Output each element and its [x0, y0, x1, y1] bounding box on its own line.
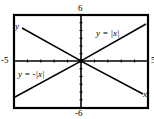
y-axis-label: y: [15, 22, 19, 31]
x-min-label: -5: [1, 56, 9, 65]
series-abs-label: y = |x|: [96, 29, 120, 38]
y-min-label: -6: [75, 109, 83, 118]
x-axis-label: x: [143, 90, 147, 99]
series-neg-abs-label: y = -|x|: [18, 70, 45, 79]
x-max-label: 5: [151, 56, 154, 65]
origin-point: [79, 59, 83, 63]
chart-plot: [0, 0, 154, 119]
series-neg-abs-x: [15, 61, 143, 97]
y-max-label: 6: [78, 4, 83, 13]
series-abs-x: [22, 24, 146, 61]
